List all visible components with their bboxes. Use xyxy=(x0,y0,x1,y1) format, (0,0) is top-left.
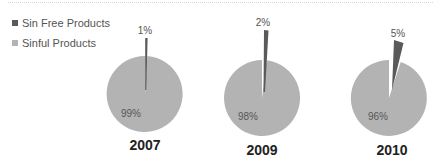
slice-label-sinful: 99% xyxy=(121,108,141,119)
chart-title-year: 2007 xyxy=(129,137,160,153)
pie-chart-2009: 2% 98% 2009 xyxy=(224,17,300,158)
slice-label-sinful: 98% xyxy=(238,111,258,122)
slice-label-sin-free: 1% xyxy=(138,25,153,36)
slice-label-sin-free: 2% xyxy=(256,17,271,28)
pie-chart-2010: 5% 96% 2010 xyxy=(351,28,427,158)
slice-label-sin-free: 5% xyxy=(391,28,406,39)
pie-charts: 1% 99% 2007 2% 98% 2009 5% 96% 2010 xyxy=(0,0,442,163)
chart-title-year: 2009 xyxy=(246,142,277,158)
pie-slice-sinful xyxy=(224,60,300,136)
pie-slice-sinful xyxy=(351,60,427,136)
slice-label-sinful: 96% xyxy=(368,111,388,122)
pie-chart-2007: 1% 99% 2007 xyxy=(107,25,183,153)
chart-title-year: 2010 xyxy=(376,142,407,158)
pie-slice-sinful xyxy=(107,56,183,132)
